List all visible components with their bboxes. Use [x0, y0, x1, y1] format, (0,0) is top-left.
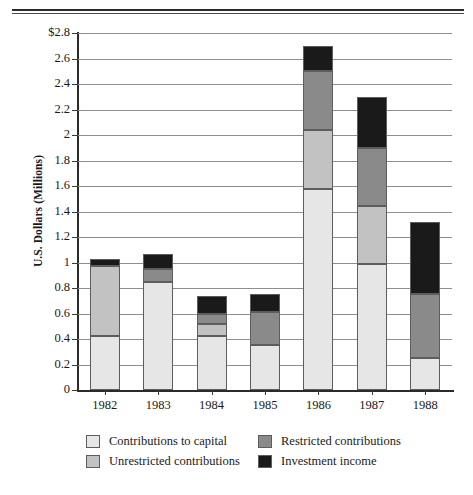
- gridline: [78, 135, 452, 136]
- x-axis-tick: [212, 390, 213, 395]
- y-axis-tick-label: 0.2: [8, 358, 70, 370]
- bar-segment[interactable]: [197, 336, 227, 390]
- y-axis-tick: [72, 135, 78, 136]
- bar-segment[interactable]: [197, 296, 227, 314]
- y-axis-tick: [72, 110, 78, 111]
- header-rule-thick: [12, 9, 464, 11]
- gridline: [78, 288, 452, 289]
- y-axis-tick: [72, 161, 78, 162]
- bar-segment[interactable]: [143, 254, 173, 269]
- legend-label: Investment income: [281, 454, 376, 468]
- bar-segment[interactable]: [303, 46, 333, 72]
- y-axis-tick-label: 0: [8, 383, 70, 395]
- legend-label: Unrestricted contributions: [109, 454, 240, 468]
- chart-legend: Contributions to capitalRestricted contr…: [86, 434, 458, 468]
- y-axis-tick: [72, 237, 78, 238]
- gridline: [78, 186, 452, 187]
- bar-segment[interactable]: [90, 336, 120, 390]
- y-axis-tick: [72, 390, 78, 391]
- y-axis-tick: [72, 314, 78, 315]
- bar-segment[interactable]: [250, 345, 280, 390]
- plot-area: [78, 33, 452, 390]
- bar-1984[interactable]: [197, 296, 227, 390]
- y-axis-tick-label: 0.6: [8, 307, 70, 319]
- bar-1987[interactable]: [357, 97, 387, 390]
- y-axis-tick-label: 1: [8, 256, 70, 268]
- bar-segment[interactable]: [410, 294, 440, 358]
- x-axis-tick: [425, 390, 426, 395]
- bar-segment[interactable]: [410, 222, 440, 295]
- y-axis-tick: [72, 212, 78, 213]
- y-axis-tick-label: 1.8: [8, 154, 70, 166]
- bar-segment[interactable]: [357, 148, 387, 207]
- legend-item[interactable]: Contributions to capital: [86, 434, 258, 448]
- y-axis-tick-label: 0.4: [8, 332, 70, 344]
- y-axis-tick-labels: $2.82.62.42.221.81.61.41.210.80.60.40.20: [8, 33, 70, 390]
- x-axis-tick-label: 1985: [235, 398, 295, 413]
- gridline: [78, 212, 452, 213]
- x-axis-tick: [158, 390, 159, 395]
- y-axis-tick-label: 2: [8, 128, 70, 140]
- bar-segment[interactable]: [357, 264, 387, 390]
- bar-1982[interactable]: [90, 259, 120, 390]
- bar-segment[interactable]: [250, 294, 280, 312]
- y-axis-tick-label: 1.2: [8, 230, 70, 242]
- stacked-bar-chart: U.S. Dollars (Millions) $2.82.62.42.221.…: [0, 0, 473, 495]
- bar-segment[interactable]: [303, 130, 333, 189]
- x-axis-tick-label: 1986: [288, 398, 348, 413]
- bar-segment[interactable]: [303, 71, 333, 130]
- x-axis-tick-label: 1983: [128, 398, 188, 413]
- bar-segment[interactable]: [90, 266, 120, 336]
- x-axis-tick: [318, 390, 319, 395]
- bar-1985[interactable]: [250, 294, 280, 390]
- bar-1988[interactable]: [410, 222, 440, 390]
- x-axis-tick-label: 1987: [342, 398, 402, 413]
- legend-item[interactable]: Unrestricted contributions: [86, 454, 258, 468]
- legend-swatch-icon: [86, 455, 100, 468]
- gridline: [78, 33, 452, 34]
- gridline: [78, 110, 452, 111]
- y-axis-tick-label: 1.6: [8, 179, 70, 191]
- y-axis-tick-label: 0.8: [8, 281, 70, 293]
- gridline: [78, 84, 452, 85]
- y-axis-tick-label: 1.4: [8, 205, 70, 217]
- y-axis-tick: [72, 263, 78, 264]
- legend-label: Contributions to capital: [109, 434, 227, 448]
- x-axis-tick-label: 1988: [395, 398, 455, 413]
- legend-swatch-icon: [258, 435, 272, 448]
- bar-segment[interactable]: [197, 314, 227, 324]
- legend-item[interactable]: Restricted contributions: [258, 434, 458, 448]
- x-axis-tick-label: 1984: [182, 398, 242, 413]
- bar-segment[interactable]: [197, 324, 227, 337]
- bar-1983[interactable]: [143, 254, 173, 390]
- x-axis-tick: [105, 390, 106, 395]
- y-axis-tick-label: 2.2: [8, 103, 70, 115]
- gridline: [78, 263, 452, 264]
- legend-label: Restricted contributions: [281, 434, 401, 448]
- y-axis-tick: [72, 84, 78, 85]
- bar-segment[interactable]: [90, 259, 120, 267]
- y-axis-tick-label: 2.6: [8, 52, 70, 64]
- legend-swatch-icon: [258, 455, 272, 468]
- bar-segment[interactable]: [143, 282, 173, 390]
- x-axis-tick: [372, 390, 373, 395]
- y-axis-tick: [72, 288, 78, 289]
- y-axis-tick: [72, 33, 78, 34]
- y-axis-tick: [72, 186, 78, 187]
- bar-1986[interactable]: [303, 46, 333, 390]
- bar-segment[interactable]: [303, 189, 333, 390]
- y-axis-tick: [72, 365, 78, 366]
- bar-segment[interactable]: [143, 269, 173, 282]
- y-axis-tick-label: $2.8: [8, 26, 70, 38]
- y-axis-tick: [72, 59, 78, 60]
- legend-item[interactable]: Investment income: [258, 454, 458, 468]
- gridline: [78, 59, 452, 60]
- bar-segment[interactable]: [357, 97, 387, 148]
- x-axis-tick-label: 1982: [75, 398, 135, 413]
- bar-segment[interactable]: [250, 312, 280, 345]
- header-rule-thin: [12, 13, 464, 14]
- bar-segment[interactable]: [410, 358, 440, 390]
- bar-segment[interactable]: [357, 206, 387, 263]
- y-axis-tick-label: 2.4: [8, 77, 70, 89]
- y-axis-tick: [72, 339, 78, 340]
